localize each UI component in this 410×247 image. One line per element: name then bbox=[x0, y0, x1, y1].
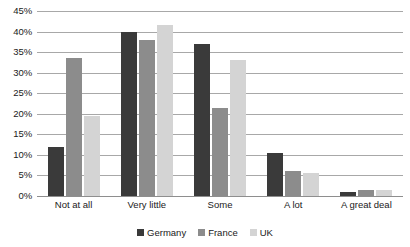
y-axis-tick-label: 35% bbox=[13, 47, 32, 57]
x-axis-category-label: A great deal bbox=[330, 200, 403, 220]
bar-uk-a-great-deal[interactable] bbox=[376, 190, 392, 196]
bar-germany-a-lot[interactable] bbox=[267, 153, 283, 196]
plot-area bbox=[37, 11, 403, 196]
bar-germany-not-at-all[interactable] bbox=[48, 147, 64, 196]
legend-label: France bbox=[208, 228, 238, 238]
bar-france-very-little[interactable] bbox=[139, 40, 155, 196]
y-axis-tick-label: 5% bbox=[18, 171, 32, 181]
x-axis-category-label: A lot bbox=[257, 200, 330, 220]
bar-uk-very-little[interactable] bbox=[157, 25, 173, 196]
y-axis-tick-label: 15% bbox=[13, 130, 32, 140]
y-axis-tick-label: 20% bbox=[13, 109, 32, 119]
legend-swatch-icon bbox=[250, 229, 257, 236]
y-axis-tick-label: 0% bbox=[18, 191, 32, 201]
axis-baseline bbox=[37, 196, 403, 197]
bar-france-a-lot[interactable] bbox=[285, 171, 301, 196]
chart-legend: GermanyFranceUK bbox=[0, 228, 410, 238]
bar-uk-some[interactable] bbox=[230, 60, 246, 196]
legend-item-germany[interactable]: Germany bbox=[137, 228, 186, 238]
bar-germany-a-great-deal[interactable] bbox=[340, 192, 356, 196]
legend-swatch-icon bbox=[198, 229, 205, 236]
bar-group bbox=[330, 11, 403, 196]
legend-item-uk[interactable]: UK bbox=[250, 228, 273, 238]
bar-france-a-great-deal[interactable] bbox=[358, 190, 374, 196]
bar-group bbox=[37, 11, 110, 196]
x-axis-category-label: Very little bbox=[110, 200, 183, 220]
bar-france-some[interactable] bbox=[212, 108, 228, 196]
bar-group bbox=[110, 11, 183, 196]
bar-group bbox=[183, 11, 256, 196]
bar-groups bbox=[37, 11, 403, 196]
legend-label: UK bbox=[260, 228, 273, 238]
x-axis-category-label: Not at all bbox=[37, 200, 110, 220]
x-axis-category-label: Some bbox=[183, 200, 256, 220]
y-axis-tick-label: 45% bbox=[13, 6, 32, 16]
bar-chart: 45%40%35%30%25%20%15%10%5%0% Not at allV… bbox=[0, 0, 410, 247]
bar-germany-some[interactable] bbox=[194, 44, 210, 196]
legend-swatch-icon bbox=[137, 229, 144, 236]
bar-uk-not-at-all[interactable] bbox=[84, 116, 100, 196]
bar-germany-very-little[interactable] bbox=[121, 32, 137, 196]
y-axis-tick-label: 40% bbox=[13, 27, 32, 37]
y-axis: 45%40%35%30%25%20%15%10%5%0% bbox=[0, 0, 34, 205]
x-axis: Not at allVery littleSomeA lotA great de… bbox=[37, 200, 403, 220]
legend-label: Germany bbox=[147, 228, 186, 238]
bar-france-not-at-all[interactable] bbox=[66, 58, 82, 196]
bar-uk-a-lot[interactable] bbox=[303, 173, 319, 196]
bar-group bbox=[257, 11, 330, 196]
y-axis-tick-label: 25% bbox=[13, 88, 32, 98]
y-axis-tick-label: 10% bbox=[13, 150, 32, 160]
y-axis-tick-label: 30% bbox=[13, 68, 32, 78]
legend-item-france[interactable]: France bbox=[198, 228, 238, 238]
